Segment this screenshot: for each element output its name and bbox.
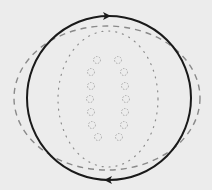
background xyxy=(0,0,212,190)
flow-diagram xyxy=(0,0,212,190)
